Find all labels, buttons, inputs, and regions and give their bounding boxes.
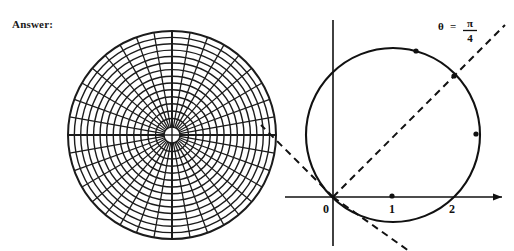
theta-equals-pi-over-4-label: θ = π 4 (438, 17, 477, 44)
figure-canvas: Answer: 0 1 2 θ = π 4 (0, 0, 514, 251)
point-marker-intersection-ray (451, 73, 456, 78)
x-axis-arrowhead (493, 193, 502, 200)
x-tick-label-1: 1 (389, 202, 395, 216)
point-marker-on-x-axis (389, 193, 394, 198)
theta-pi-over-4-dashed-ray (333, 25, 505, 197)
theta-pi-over-4-extension-lower-right (333, 197, 409, 251)
pi-numerator: π (467, 17, 473, 29)
point-marker-upper-arc (413, 48, 418, 53)
x-tick-label-0: 0 (323, 202, 329, 216)
polar-circle-figure: 0 1 2 θ = π 4 (0, 0, 514, 251)
four-denominator: 4 (467, 32, 473, 44)
point-marker-right-arc (473, 131, 478, 136)
equals-sign: = (450, 20, 456, 32)
theta-symbol: θ (438, 20, 444, 32)
x-tick-label-2: 2 (449, 202, 455, 216)
